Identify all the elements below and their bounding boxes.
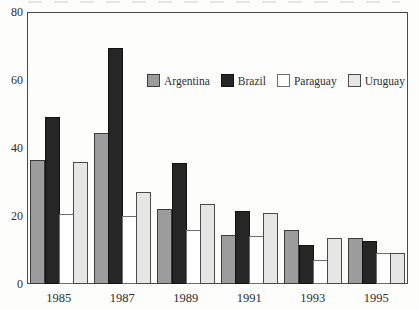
y-tick-0: 0 xyxy=(0,276,23,292)
legend: ArgentinaBrazilParaguayUruguay xyxy=(147,74,405,87)
bar-argentina-1991 xyxy=(221,235,236,284)
legend-swatch-paraguay xyxy=(277,74,290,87)
bar-paraguay-1993 xyxy=(313,260,328,284)
bar-uruguay-1995 xyxy=(390,253,405,284)
bar-argentina-1985 xyxy=(30,160,45,284)
x-tick-1989: 1989 xyxy=(158,291,214,306)
bar-argentina-1995 xyxy=(348,238,363,284)
bar-paraguay-1985 xyxy=(59,214,74,284)
legend-label-paraguay: Paraguay xyxy=(294,75,337,87)
bar-argentina-1993 xyxy=(284,230,299,284)
legend-item-paraguay: Paraguay xyxy=(277,74,337,87)
scan-artifact xyxy=(28,1,400,3)
bar-uruguay-1985 xyxy=(73,162,88,284)
legend-swatch-brazil xyxy=(221,74,234,87)
bar-uruguay-1993 xyxy=(327,238,342,284)
bar-paraguay-1995 xyxy=(376,253,391,284)
x-tick-1991: 1991 xyxy=(221,291,277,306)
bar-brazil-1985 xyxy=(45,117,60,284)
bar-argentina-1987 xyxy=(94,133,109,284)
x-tick-1993: 1993 xyxy=(285,291,341,306)
y-tick-80: 80 xyxy=(0,4,23,20)
legend-label-uruguay: Uruguay xyxy=(365,75,405,87)
bar-brazil-1987 xyxy=(108,48,123,284)
bar-brazil-1995 xyxy=(362,241,377,284)
bar-uruguay-1987 xyxy=(136,192,151,284)
x-tick-1985: 1985 xyxy=(31,291,87,306)
legend-item-uruguay: Uruguay xyxy=(348,74,405,87)
legend-swatch-argentina xyxy=(147,74,160,87)
bar-brazil-1991 xyxy=(235,211,250,284)
legend-swatch-uruguay xyxy=(348,74,361,87)
bar-uruguay-1991 xyxy=(263,213,278,284)
bar-argentina-1989 xyxy=(157,209,172,284)
bar-paraguay-1991 xyxy=(249,236,264,284)
bar-uruguay-1989 xyxy=(200,204,215,284)
y-tick-40: 40 xyxy=(0,140,23,156)
x-tick-1995: 1995 xyxy=(348,291,404,306)
bar-chart: 806040200 198519871989199119931995 Argen… xyxy=(0,0,419,310)
legend-item-argentina: Argentina xyxy=(147,74,210,87)
legend-label-brazil: Brazil xyxy=(238,75,266,87)
bar-paraguay-1987 xyxy=(122,216,137,284)
legend-item-brazil: Brazil xyxy=(221,74,266,87)
bar-brazil-1993 xyxy=(299,245,314,284)
bar-paraguay-1989 xyxy=(186,230,201,284)
y-tick-20: 20 xyxy=(0,208,23,224)
bar-brazil-1989 xyxy=(172,163,187,284)
y-tick-60: 60 xyxy=(0,72,23,88)
x-tick-1987: 1987 xyxy=(94,291,150,306)
legend-label-argentina: Argentina xyxy=(164,75,210,87)
